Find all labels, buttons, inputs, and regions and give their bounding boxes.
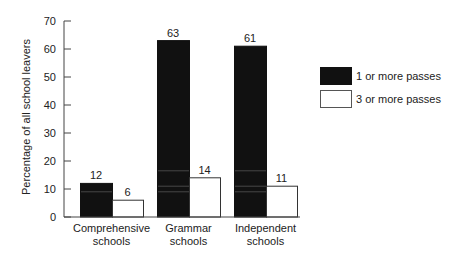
x-category-label: schools (170, 235, 208, 247)
x-category-label: Independent (235, 222, 296, 234)
bar-one-or-more (235, 46, 267, 217)
y-axis-title: Percentage of all school leavers (20, 39, 32, 195)
y-tick-label: 70 (44, 15, 56, 27)
bar-groups: 126Comprehensiveschools6314Grammarschool… (73, 27, 298, 247)
y-axis: 010203040506070 (44, 15, 71, 223)
x-category-label: Grammar (165, 222, 212, 234)
bar-group: 126Comprehensiveschools (73, 169, 150, 247)
legend-label: 1 or more passes (356, 70, 441, 82)
bar-one-or-more (158, 41, 190, 217)
y-tick-label: 30 (44, 127, 56, 139)
bar-value-label: 61 (244, 32, 256, 44)
legend: 1 or more passes3 or more passes (321, 68, 442, 108)
legend-swatch (321, 68, 352, 85)
bar-three-or-more (190, 178, 221, 217)
x-category-label: Comprehensive (73, 222, 150, 234)
bar-three-or-more (267, 186, 298, 217)
bar-value-label: 6 (124, 186, 130, 198)
y-tick-label: 50 (44, 71, 56, 83)
y-tick-label: 60 (44, 43, 56, 55)
y-tick-label: 10 (44, 183, 56, 195)
bar-value-label: 11 (276, 172, 287, 184)
y-tick-label: 0 (50, 211, 56, 223)
bar-three-or-more (113, 200, 144, 217)
bar-value-label: 63 (167, 27, 179, 39)
y-tick-label: 40 (44, 99, 56, 111)
bar-value-label: 14 (198, 164, 210, 176)
legend-item: 3 or more passes (321, 91, 442, 108)
x-category-label: schools (93, 235, 131, 247)
x-category-label: schools (247, 235, 285, 247)
legend-swatch (321, 91, 352, 108)
legend-label: 3 or more passes (356, 93, 441, 105)
bar-one-or-more (81, 183, 113, 217)
bar-group: 6111Independentschools (235, 32, 298, 247)
bar-chart: 010203040506070 Percentage of all school… (0, 0, 454, 255)
legend-item: 1 or more passes (321, 68, 442, 85)
bar-group: 6314Grammarschools (158, 27, 221, 247)
y-tick-label: 20 (44, 155, 56, 167)
y-axis-label: Percentage of all school leavers (20, 39, 32, 195)
bar-value-label: 12 (90, 169, 102, 181)
